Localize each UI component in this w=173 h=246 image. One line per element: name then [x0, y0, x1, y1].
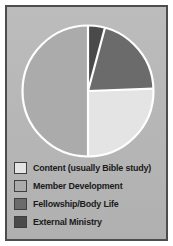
pie-chart-area: [7, 7, 166, 159]
pie-slice: [88, 89, 154, 157]
legend-swatch-content: [14, 162, 27, 174]
chart-frame: Content (usually Bible study) Member Dev…: [5, 5, 168, 241]
legend-swatch-fellowship: [14, 198, 27, 210]
legend-swatch-external-ministry: [14, 216, 27, 228]
pie-slice: [22, 26, 88, 157]
figure: Content (usually Bible study) Member Dev…: [0, 0, 173, 246]
legend-item-member-development: Member Development: [14, 177, 166, 195]
pie-chart: [7, 7, 166, 159]
legend-label-fellowship: Fellowship/Body Life: [33, 199, 119, 209]
legend-label-external-ministry: External Ministry: [33, 217, 102, 227]
legend-label-content: Content (usually Bible study): [33, 163, 151, 173]
legend-item-external-ministry: External Ministry: [14, 213, 166, 231]
legend-label-member-development: Member Development: [33, 181, 122, 191]
legend-item-content: Content (usually Bible study): [14, 159, 166, 177]
legend-swatch-member-development: [14, 180, 27, 192]
legend-item-fellowship: Fellowship/Body Life: [14, 195, 166, 213]
legend: Content (usually Bible study) Member Dev…: [14, 159, 166, 237]
